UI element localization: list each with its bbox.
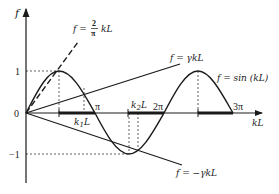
- dashed-line-label: f =: [72, 24, 87, 34]
- x-tick-pi: π: [95, 101, 100, 112]
- gamma-line-label: f = γkL: [169, 53, 203, 63]
- dashed-line-label-den: π: [91, 29, 96, 38]
- k1L-label: k1L: [74, 117, 90, 129]
- neg-gamma-line-label: f = −γkL: [175, 168, 217, 178]
- dashed-line-label-suffix: kL: [101, 24, 112, 34]
- dashed-line-2-over-pi: [26, 42, 78, 113]
- kl-axis-label: kL: [252, 118, 263, 128]
- x-tick-2pi: 2π: [153, 101, 163, 112]
- frequency-diagram: f kL 1 0 −1 π 2π 3π k1L k2L f = 2 π kL f…: [0, 0, 279, 194]
- y-tick-0: 0: [14, 108, 19, 119]
- k2L-label: k2L: [131, 100, 147, 112]
- f-axis-label: f: [14, 7, 21, 20]
- x-tick-3pi: 3π: [233, 101, 243, 112]
- sine-curve-label: f = sin (kL): [216, 73, 269, 83]
- line-neg-gamma-kl: [26, 113, 182, 165]
- dashed-line-label-num: 2: [92, 19, 96, 28]
- y-tick-1: 1: [15, 66, 20, 77]
- y-tick-minus-1: −1: [9, 149, 20, 160]
